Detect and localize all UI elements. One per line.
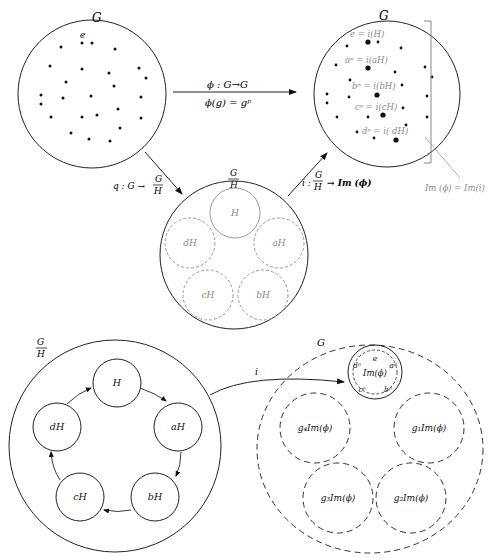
quotient-num: G xyxy=(37,337,44,347)
phi-signature: ϕ : G→G xyxy=(207,79,248,90)
mapping-d: dᵖ = i( dH) xyxy=(362,126,408,136)
bracket-leader xyxy=(425,137,460,178)
i-label-prefix: i : xyxy=(302,178,311,188)
group-label: G xyxy=(92,11,102,25)
group-elements xyxy=(40,42,148,143)
cycle-label-bH: bH xyxy=(148,491,163,502)
image-el-c: cᵖ xyxy=(358,385,365,394)
bottom-i-arrow: i xyxy=(210,367,344,395)
image-el-d: dᵖ xyxy=(353,361,361,370)
top-right-group: G e = i(H) aᵖ = i(aH) bᵖ = i(bH) cᵖ = i(… xyxy=(314,9,485,193)
i-arrow: i : G H → Im (ϕ) xyxy=(288,153,372,196)
quotient-circle xyxy=(160,181,308,329)
cycle-label-H: H xyxy=(112,377,122,388)
q-label: q : G → xyxy=(113,181,146,191)
coset-label-g3: g₃Im(ϕ) xyxy=(321,493,356,503)
coset-label-g2: g₂Im(ϕ) xyxy=(394,493,429,503)
identity-label: e xyxy=(80,30,85,40)
bottom-right-group: G Im(ϕ) e aᵖ bᵖ cᵖ dᵖ g₁Im(ϕ) g₂Im(ϕ) g₃… xyxy=(257,337,483,553)
mapping-c: cᵖ = i(cH) xyxy=(355,102,397,112)
mapping-labels: e = i(H) aᵖ = i(aH) bᵖ = i(bH) cᵖ = i(cH… xyxy=(345,29,408,136)
quotient-top: G H H aH bH cH dH xyxy=(160,168,308,329)
cycle-label-dH: dH xyxy=(50,421,65,432)
image-el-b: bᵖ xyxy=(384,385,392,394)
cycle-label-aH: aH xyxy=(171,421,186,432)
q-arrow: q : G → G H xyxy=(113,152,182,196)
group-label: G xyxy=(317,337,325,348)
group-circle xyxy=(314,21,460,167)
top-left-group: G e xyxy=(18,11,166,168)
quotient-den: H xyxy=(36,349,45,359)
cycle-label-cH: cH xyxy=(73,491,87,502)
coset-label-g1: g₁Im(ϕ) xyxy=(412,423,447,433)
phi-definition: ϕ(g) = gᵖ xyxy=(205,97,251,108)
image-bracket xyxy=(424,21,431,163)
mapping-b: bᵖ = i(bH) xyxy=(352,81,396,91)
phi-arrow: ϕ : G→G ϕ(g) = gᵖ xyxy=(173,79,296,108)
coset-label-dH: dH xyxy=(183,238,197,248)
image-el-a: aᵖ xyxy=(389,361,396,370)
i-frac-num: G xyxy=(315,170,322,180)
coset-label-cH: cH xyxy=(202,290,215,300)
q-frac-den: H xyxy=(153,186,162,196)
coset-label-bH: bH xyxy=(256,290,270,300)
coset-label-aH: aH xyxy=(272,238,285,248)
i-frac-den: H xyxy=(313,182,322,192)
image-equality-label: Im (ϕ) = Im(i) xyxy=(424,183,485,193)
mapping-e: e = i(H) xyxy=(350,29,384,39)
image-label: Im(ϕ) xyxy=(362,368,387,378)
coset-label-g4: g₄Im(ϕ) xyxy=(298,423,333,433)
image-el-e: e xyxy=(373,354,378,363)
diagram-canvas: G e ϕ : G→G ϕ(g) = gᵖ G e = i(H) xyxy=(0,0,493,558)
bottom-arrow-label: i xyxy=(255,367,258,377)
mapping-a: aᵖ = i(aH) xyxy=(345,55,388,65)
q-frac-num: G xyxy=(155,174,162,184)
quotient-num: G xyxy=(230,168,237,178)
coset-label-H: H xyxy=(230,208,239,218)
quotient-circle xyxy=(9,340,221,552)
i-label-suffix: → Im (ϕ) xyxy=(327,178,372,188)
quotient-bottom: G H H aH bH cH dH xyxy=(9,337,221,552)
